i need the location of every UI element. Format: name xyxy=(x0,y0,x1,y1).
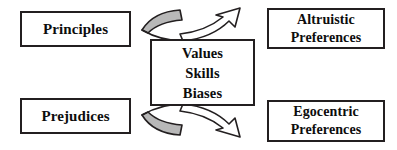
node-altruistic-label-line1: Altruistic xyxy=(297,11,355,29)
node-prejudices-label: Prejudices xyxy=(41,108,109,125)
node-core-label-skills: Skills xyxy=(185,63,219,83)
diagram-canvas: Principles Prejudices Values Skills Bias… xyxy=(0,0,397,150)
node-egocentric-label-line2: Preferences xyxy=(291,121,362,139)
node-core[interactable]: Values Skills Biases xyxy=(150,39,255,106)
node-principles-label: Principles xyxy=(43,21,108,38)
node-altruistic[interactable]: Altruistic Preferences xyxy=(267,8,385,49)
node-egocentric[interactable]: Egocentric Preferences xyxy=(267,100,385,142)
connector-bottom-right-arrow xyxy=(180,104,240,137)
node-principles[interactable]: Principles xyxy=(20,11,131,47)
node-core-label-biases: Biases xyxy=(183,83,222,103)
node-core-label-values: Values xyxy=(182,43,223,63)
connector-top-right-arrow xyxy=(180,8,240,41)
connector-top-left-wing xyxy=(142,10,182,33)
node-egocentric-label-line1: Egocentric xyxy=(293,103,359,121)
node-prejudices[interactable]: Prejudices xyxy=(20,98,131,134)
connector-bottom-left-wing xyxy=(142,112,182,135)
node-altruistic-label-line2: Preferences xyxy=(291,29,362,47)
